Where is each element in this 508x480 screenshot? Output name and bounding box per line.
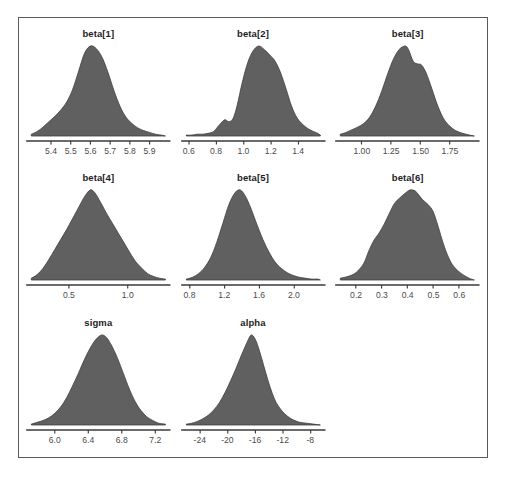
x-axis-tick-label: 1.0 [237,146,249,157]
density-curve [341,190,475,280]
density-curve [186,335,320,425]
x-axis-tick-label: 1.4 [292,146,304,157]
x-axis-tick-labels: 0.60.81.01.21.4 [176,146,331,160]
top-cut-text [0,0,508,8]
x-axis-tick-label: -8 [307,435,315,446]
x-axis-tick-label: 0.5 [427,290,439,301]
panel-plot-area [176,329,331,435]
panel-title: beta[5] [237,172,269,183]
density-curve [341,46,475,136]
density-curve [31,190,165,280]
density-panel-beta4: beta[4]0.51.0 [21,166,176,310]
panel-plot-area [176,40,331,146]
x-axis-tick-label: 1.00 [353,146,370,157]
x-axis-tick-label: 6.4 [82,435,94,446]
x-axis-tick-label: 0.5 [63,290,75,301]
x-axis-tick-label: -20 [221,435,233,446]
density-panel-beta1: beta[1]5.45.55.65.75.85.9 [21,22,176,166]
x-axis-tick-label: 1.2 [265,146,277,157]
x-axis-tick-labels: -24-20-16-12-8 [176,435,331,449]
density-curve [186,46,320,136]
x-axis-tick-labels: 0.20.30.40.50.6 [330,290,485,304]
panel-plot-area [21,40,176,146]
x-axis-tick-label: 0.4 [402,290,414,301]
x-axis-tick-labels: 0.81.21.62.0 [176,290,331,304]
density-curve [31,46,165,136]
x-axis-tick-label: 0.3 [376,290,388,301]
panel-title: beta[1] [82,28,114,39]
density-panel-beta3: beta[3]1.001.251.501.75 [330,22,485,166]
panel-title: beta[3] [392,28,424,39]
panel-title: beta[6] [392,172,424,183]
x-axis-tick-label: 5.7 [104,146,116,157]
x-axis-tick-label: -24 [194,435,206,446]
panel-title: beta[4] [82,172,114,183]
x-axis-tick-label: 5.6 [84,146,96,157]
x-axis-tick-labels: 1.001.251.501.75 [330,146,485,160]
x-axis-tick-label: 2.0 [288,290,300,301]
x-axis-tick-labels: 6.06.46.87.2 [21,435,176,449]
x-axis-tick-label: 0.2 [350,290,362,301]
x-axis-tick-label: 1.25 [383,146,400,157]
x-axis-tick-label: 0.6 [183,146,195,157]
density-panel-sigma: sigma6.06.46.87.2 [21,311,176,455]
x-axis-tick-labels: 5.45.55.65.75.85.9 [21,146,176,160]
x-axis-tick-label: 1.75 [442,146,459,157]
x-axis-tick-label: 0.6 [453,290,465,301]
density-panel-beta2: beta[2]0.60.81.01.21.4 [176,22,331,166]
x-axis-tick-label: 1.50 [412,146,429,157]
panel-plot-area [21,329,176,435]
figure-frame: beta[1]5.45.55.65.75.85.9beta[2]0.60.81.… [18,17,488,458]
x-axis-tick-label: 0.8 [210,146,222,157]
panel-plot-area [330,40,485,146]
density-panel-beta5: beta[5]0.81.21.62.0 [176,166,331,310]
panel-title: alpha [240,317,265,328]
x-axis-tick-label: 5.9 [144,146,156,157]
x-axis-tick-label: 1.6 [253,290,265,301]
x-axis-tick-label: -12 [276,435,288,446]
density-panel-alpha: alpha-24-20-16-12-8 [176,311,331,455]
x-axis-tick-label: 0.8 [183,290,195,301]
x-axis-tick-label: 1.0 [122,290,134,301]
x-axis-tick-label: 5.4 [45,146,57,157]
panel-title: sigma [84,317,112,328]
panel-plot-area [21,184,176,290]
x-axis-tick-label: 6.0 [49,435,61,446]
panel-plot-area [176,184,331,290]
x-axis-tick-labels: 0.51.0 [21,290,176,304]
x-axis-tick-label: 6.8 [116,435,128,446]
x-axis-tick-label: 5.8 [124,146,136,157]
x-axis-tick-label: 7.2 [149,435,161,446]
panel-plot-area [330,184,485,290]
x-axis-tick-label: 5.5 [65,146,77,157]
x-axis-tick-label: -16 [249,435,261,446]
density-panel-beta6: beta[6]0.20.30.40.50.6 [330,166,485,310]
panel-title: beta[2] [237,28,269,39]
density-panel-grid: beta[1]5.45.55.65.75.85.9beta[2]0.60.81.… [19,18,487,457]
density-curve [186,190,320,280]
x-axis-tick-label: 1.2 [218,290,230,301]
density-curve [31,335,165,425]
